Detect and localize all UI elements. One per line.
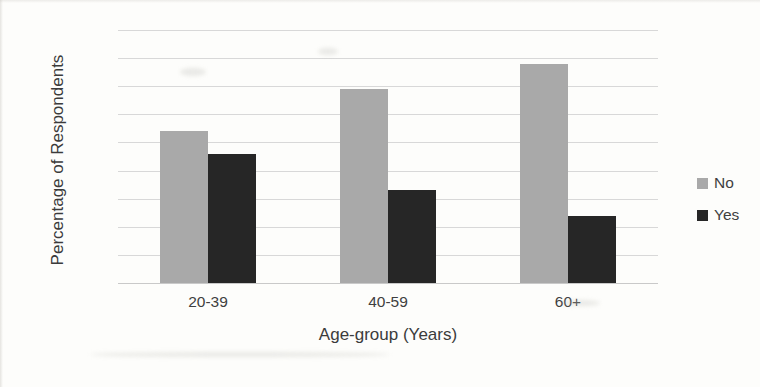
bar-no-20-39 xyxy=(160,131,208,283)
legend-item-no: No xyxy=(697,167,739,199)
plot-area: 0%10%20%30%40%50%60%70%80%90%20-3940-596… xyxy=(118,30,658,283)
bar-no-60+ xyxy=(520,64,568,283)
legend-label: No xyxy=(714,174,734,192)
legend-label: Yes xyxy=(714,206,739,224)
gridline xyxy=(118,114,658,115)
legend-item-yes: Yes xyxy=(697,199,739,231)
bar-chart: Percentage of Respondents 0%10%20%30%40%… xyxy=(0,0,760,387)
bar-yes-40-59 xyxy=(388,190,436,283)
legend-swatch-icon xyxy=(697,178,708,189)
x-tick-label: 60+ xyxy=(555,293,581,311)
gridline xyxy=(118,58,658,59)
bar-yes-60+ xyxy=(568,216,616,283)
x-tick-label: 40-59 xyxy=(368,293,408,311)
bar-no-40-59 xyxy=(340,89,388,283)
gridline xyxy=(118,30,658,31)
y-axis-title: Percentage of Respondents xyxy=(48,10,68,310)
x-tick-label: 20-39 xyxy=(188,293,228,311)
legend-swatch-icon xyxy=(697,210,708,221)
chart-legend: NoYes xyxy=(697,167,739,231)
x-axis-title: Age-group (Years) xyxy=(118,325,658,345)
gridline xyxy=(118,283,658,284)
bar-yes-20-39 xyxy=(208,154,256,283)
gridline xyxy=(118,86,658,87)
